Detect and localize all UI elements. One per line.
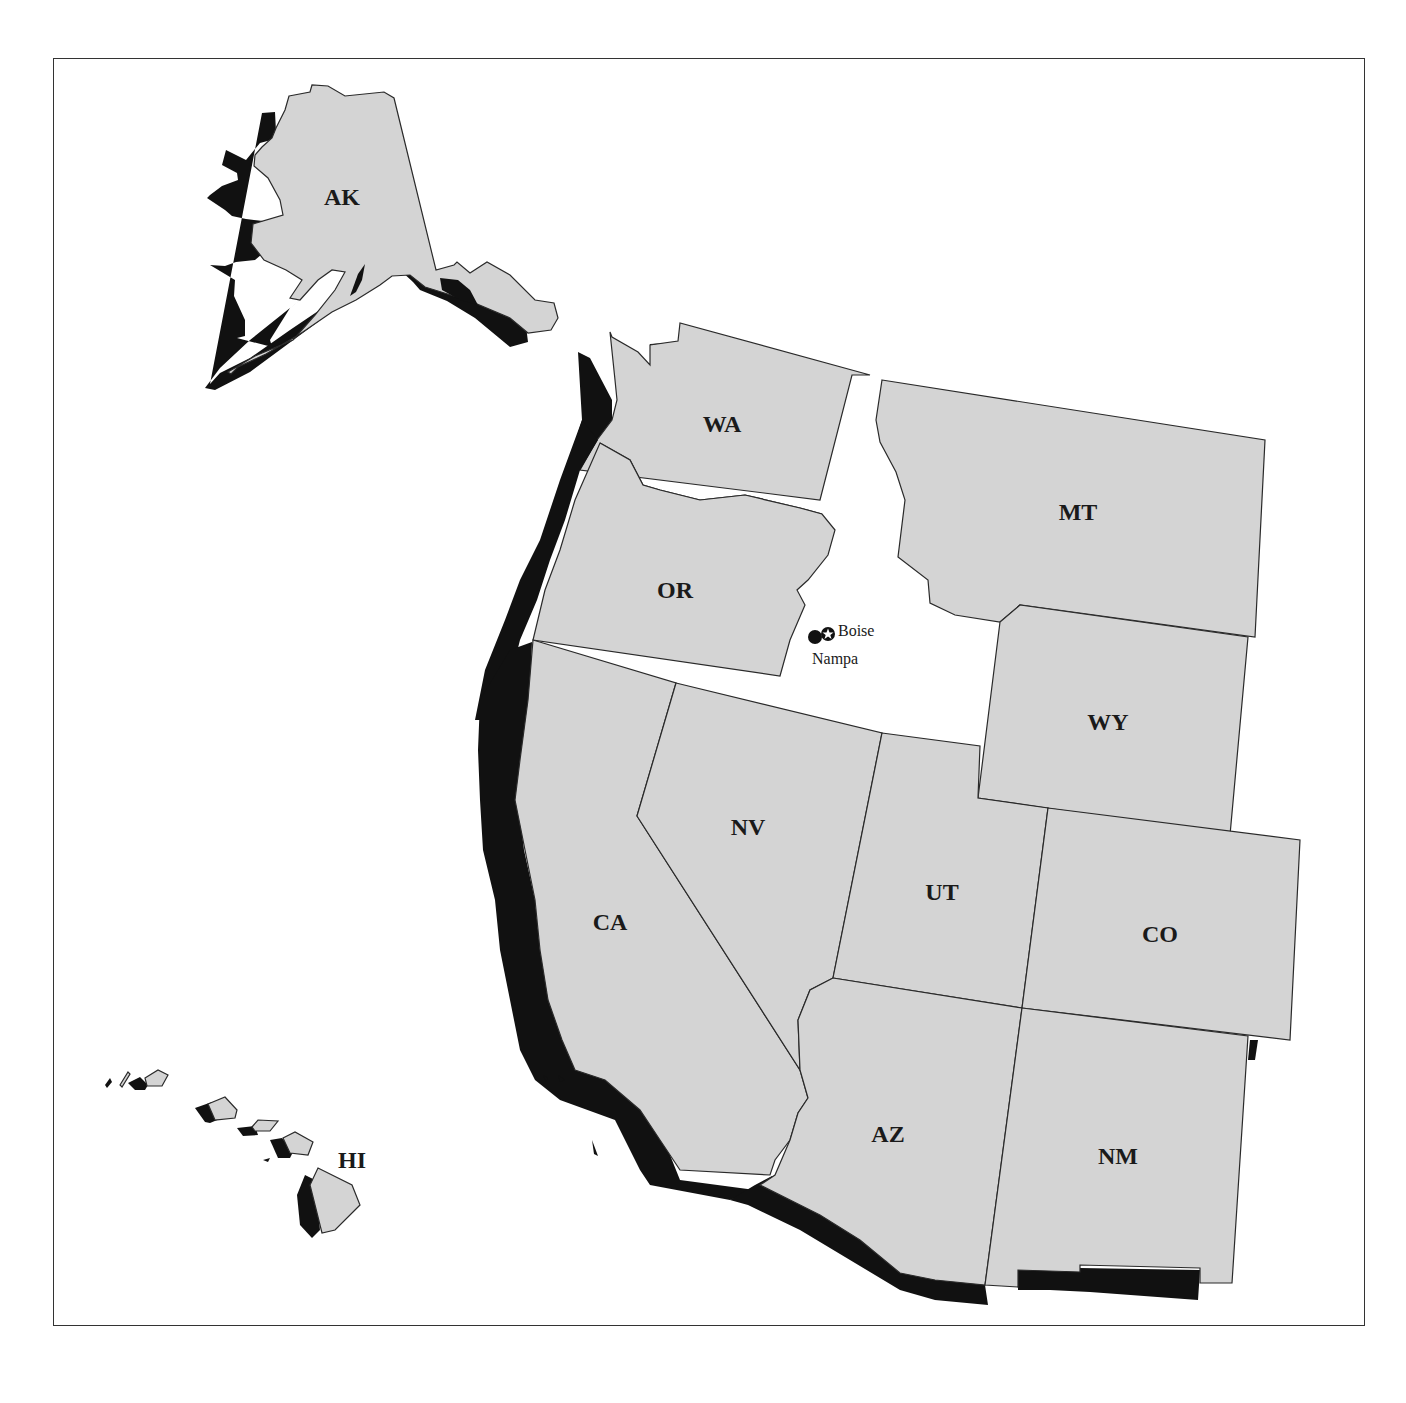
city-boise (821, 627, 835, 641)
state-label-wa: WA (703, 411, 742, 437)
island-shadow (592, 1140, 598, 1156)
western-us-map: AK WA OR CA NV MT WY UT CO (0, 0, 1406, 1403)
city-nampa (808, 630, 822, 644)
city-label-nampa: Nampa (812, 650, 858, 668)
state-label-nv: NV (731, 814, 766, 840)
state-label-hi: HI (338, 1147, 366, 1173)
state-label-co: CO (1142, 921, 1178, 947)
state-label-az: AZ (871, 1121, 904, 1147)
state-hi (105, 1070, 360, 1238)
state-label-mt: MT (1059, 499, 1098, 525)
state-label-or: OR (657, 577, 694, 603)
city-label-boise: Boise (838, 622, 874, 639)
state-label-ut: UT (925, 879, 958, 905)
state-ak (205, 85, 558, 390)
filled-circle-icon (808, 630, 822, 644)
state-label-wy: WY (1087, 709, 1128, 735)
state-label-nm: NM (1098, 1143, 1138, 1169)
state-label-ca: CA (593, 909, 628, 935)
state-label-ak: AK (324, 184, 360, 210)
